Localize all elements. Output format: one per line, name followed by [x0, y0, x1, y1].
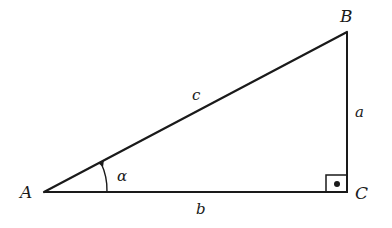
vertex-label-b: B [339, 6, 353, 26]
side-label-c: c [192, 86, 201, 104]
side-label-b: b [196, 200, 206, 218]
vertex-label-c: C [355, 183, 368, 203]
angle-label-alpha: α [117, 167, 127, 185]
side-c [44, 32, 347, 192]
angle-alpha-arc [101, 163, 107, 192]
right-triangle-diagram: A B C a b c α [0, 0, 392, 228]
vertex-label-a: A [18, 182, 32, 202]
side-label-a: a [355, 103, 364, 121]
right-angle-dot [334, 181, 340, 187]
